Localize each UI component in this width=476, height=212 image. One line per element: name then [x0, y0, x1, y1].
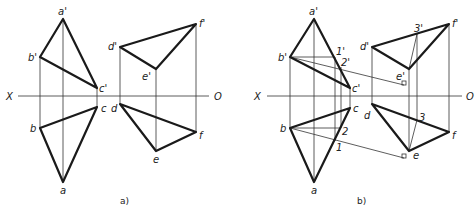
axis-label-o: O	[466, 91, 474, 102]
panel-a: X O a' b' c' c b a d' e' f' d e f a)	[5, 6, 222, 206]
label-3: 3	[419, 112, 425, 123]
label-d: d	[364, 110, 371, 121]
label-f-prime: f'	[452, 18, 458, 29]
label-f: f	[452, 130, 457, 141]
label-2: 2	[342, 126, 348, 137]
label-c-prime: c'	[99, 83, 107, 94]
label-e-prime: e'	[142, 71, 151, 82]
label-f-prime: f'	[199, 18, 205, 29]
label-d-prime: d'	[360, 41, 369, 52]
triangle-abc-top	[40, 107, 97, 182]
label-c-prime: c'	[352, 83, 360, 94]
axis-label-x: X	[253, 91, 262, 102]
label-a: a	[60, 185, 66, 196]
label-b-prime: b'	[28, 52, 37, 63]
orthographic-projection-figure: X O a' b' c' c b a d' e' f' d e f a) X O	[0, 0, 476, 212]
label-e: e	[413, 150, 419, 161]
label-f: f	[199, 130, 204, 141]
label-c: c	[101, 103, 107, 114]
triangle-def-top	[120, 104, 196, 151]
label-3-prime: 3'	[414, 23, 423, 34]
axis-label-o: O	[214, 91, 222, 102]
line-e-3	[409, 120, 417, 151]
label-e: e	[153, 154, 159, 165]
caption-a: a)	[120, 196, 129, 206]
label-1-prime: 1'	[336, 46, 345, 57]
label-b: b	[30, 123, 36, 134]
label-d: d	[111, 103, 118, 114]
label-1: 1	[336, 142, 342, 153]
caption-b: b)	[357, 196, 366, 206]
label-a: a	[311, 185, 317, 196]
axis-label-x: X	[5, 91, 14, 102]
label-d-prime: d'	[108, 41, 117, 52]
label-e-prime: e'	[396, 71, 405, 82]
label-2-prime: 2'	[341, 57, 350, 68]
triangle-abc-front	[40, 19, 97, 88]
label-c: c	[353, 103, 359, 114]
triangle-def-front	[120, 24, 196, 69]
label-a-prime: a'	[58, 6, 67, 17]
label-b-prime: b'	[278, 52, 287, 63]
label-b: b	[280, 123, 286, 134]
label-a-prime: a'	[309, 6, 318, 17]
panel-b: X O a' b' c' c b a 1' 2'	[253, 6, 474, 206]
